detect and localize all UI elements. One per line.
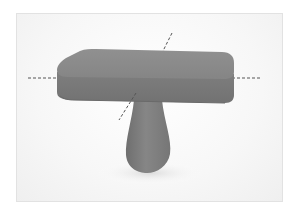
slab-top xyxy=(57,49,234,79)
stem xyxy=(126,100,170,173)
render-scene xyxy=(0,0,299,212)
depth-axis-upper xyxy=(162,33,172,53)
